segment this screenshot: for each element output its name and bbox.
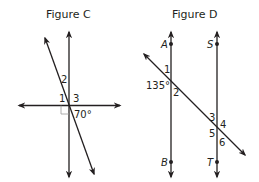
point-label-a: A (160, 39, 168, 50)
angle-label-4: 4 (220, 119, 226, 130)
geometry-diagram: 2 1 3 70° A S B T 1 135° 2 3 4 5 6 (0, 0, 259, 182)
angle-label-5: 5 (209, 128, 215, 139)
point-a (169, 42, 173, 46)
angle-label-2: 2 (61, 74, 67, 85)
angle-label-3: 3 (73, 93, 79, 104)
angle-label-1: 1 (164, 64, 170, 75)
angle-label-2: 2 (173, 87, 179, 98)
point-label-s: S (207, 39, 214, 50)
point-b (169, 160, 173, 164)
angle-label-1: 1 (59, 93, 65, 104)
given-angle-70: 70° (74, 109, 92, 120)
figure-d: A S B T 1 135° 2 3 4 5 6 (144, 32, 245, 177)
transversal-line-d (144, 54, 245, 155)
angle-label-6: 6 (219, 137, 225, 148)
angle-label-3: 3 (209, 112, 215, 123)
point-t (215, 160, 219, 164)
given-angle-135: 135° (146, 80, 170, 91)
point-label-t: T (207, 157, 214, 168)
point-label-b: B (161, 157, 168, 168)
figure-c: 2 1 3 70° (19, 32, 120, 177)
right-angle-marker (61, 106, 69, 115)
point-s (215, 42, 219, 46)
